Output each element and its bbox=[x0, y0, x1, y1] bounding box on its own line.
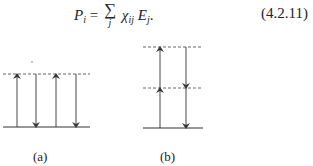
stray-dot bbox=[31, 61, 32, 62]
diagram-a-label: (a) bbox=[33, 149, 47, 165]
energy-level-diagrams bbox=[0, 0, 313, 166]
diagram-b bbox=[143, 47, 203, 128]
diagram-a bbox=[3, 61, 90, 127]
diagram-b-label: (b) bbox=[160, 149, 175, 165]
